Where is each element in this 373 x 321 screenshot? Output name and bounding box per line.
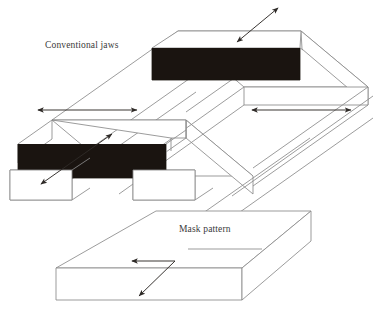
top-jaw: [152, 31, 303, 80]
diagram-canvas: Conventional jaws Mask pattern: [0, 0, 373, 321]
label-mask-pattern: Mask pattern: [179, 224, 231, 234]
structure-outlines: [10, 31, 373, 300]
label-conventional-jaws: Conventional jaws: [45, 40, 119, 50]
